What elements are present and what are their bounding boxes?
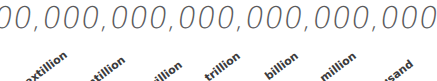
place-value-label-group: sextillion quintillion quadrillion trill… [0,0,437,81]
number-place-value-figure: 6,600,000,000,000,000,000,000 sextillion… [0,0,437,81]
place-label-sextillion: sextillion [0,48,70,81]
